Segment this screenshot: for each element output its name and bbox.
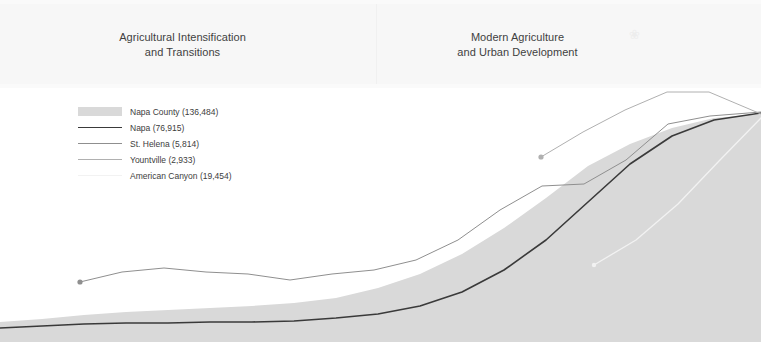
chart-legend: Napa County (136,484)Napa (76,915)St. He… <box>78 104 308 184</box>
era-label-modern-agriculture: Modern Agriculture and Urban Development <box>405 30 630 60</box>
era-header-band: ❀ Agricultural Intensification and Trans… <box>0 0 761 88</box>
start-marker-american-canyon <box>592 263 596 267</box>
era-divider <box>376 4 377 84</box>
legend-item-label: American Canyon (19,454) <box>130 169 232 183</box>
legend-swatch-icon <box>78 104 122 120</box>
legend-item-st-helena[interactable]: St. Helena (5,814) <box>78 136 308 152</box>
legend-line-swatch <box>78 143 122 144</box>
legend-item-american-canyon[interactable]: American Canyon (19,454) <box>78 168 308 184</box>
legend-swatch-icon <box>78 152 122 168</box>
legend-swatch-icon <box>78 168 122 184</box>
legend-item-label: Napa County (136,484) <box>130 105 218 119</box>
legend-item-napa[interactable]: Napa (76,915) <box>78 120 308 136</box>
start-marker-yountville <box>538 154 543 159</box>
legend-item-label: Napa (76,915) <box>130 121 184 135</box>
legend-swatch-icon <box>78 136 122 152</box>
legend-item-yountville[interactable]: Yountville (2,933) <box>78 152 308 168</box>
legend-swatch-icon <box>78 120 122 136</box>
start-marker-st-helena <box>77 279 82 284</box>
ornament-icon: ❀ <box>629 28 640 41</box>
legend-item-napa-county[interactable]: Napa County (136,484) <box>78 104 308 120</box>
legend-line-swatch <box>78 127 122 128</box>
legend-item-label: Yountville (2,933) <box>130 153 195 167</box>
legend-line-swatch <box>78 175 122 176</box>
population-chart-figure: ❀ Agricultural Intensification and Trans… <box>0 0 761 342</box>
legend-item-label: St. Helena (5,814) <box>130 137 199 151</box>
legend-line-swatch <box>78 159 122 160</box>
era-label-agricultural-intensification: Agricultural Intensification and Transit… <box>70 30 295 60</box>
legend-area-swatch <box>78 107 122 116</box>
